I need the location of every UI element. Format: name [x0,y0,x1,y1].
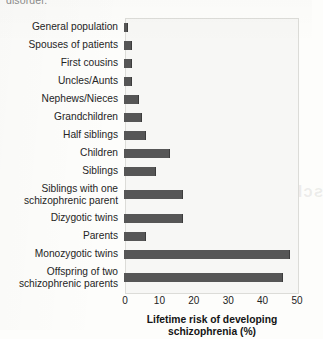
bar-category-label: Monozygotic twins [0,248,124,260]
bar [124,149,170,158]
bar-track [124,90,304,108]
bar-category-label: First cousins [0,57,124,69]
bar-row: Nephews/Nieces [0,90,312,108]
x-axis-tick-label: 10 [154,295,165,306]
bar-track [124,18,304,36]
bar [124,113,142,122]
bar-row: Half siblings [0,126,312,144]
bar-category-label: Siblings with one schizophrenic parent [0,183,124,206]
x-axis-tick-label: 50 [291,295,302,306]
bar-track [124,36,304,54]
x-axis-tick-label: 0 [122,295,128,306]
bar [124,59,132,68]
bar [124,95,139,104]
bar [124,232,146,241]
bar-category-label: Half siblings [0,129,124,141]
bar-category-label: Children [0,147,124,159]
x-axis-title-line2: schizophrenia (%) [124,326,300,338]
bar-row: Spouses of patients [0,36,312,54]
x-axis: 01020304050 [124,292,298,310]
bar-row: Dizygotic twins [0,209,312,227]
bar-track [124,227,304,245]
bar-row: Grandchildren [0,108,312,126]
bar-category-label: General population [0,21,124,33]
bar-track [124,162,304,180]
bar-category-label: Dizygotic twins [0,212,124,224]
x-axis-tick-label: 30 [223,295,234,306]
cropped-header-text: disorder. [6,0,47,8]
bar [124,167,156,176]
bar-category-label: Siblings [0,165,124,177]
bar-category-label: Uncles/Aunts [0,75,124,87]
chart-rows: General populationSpouses of patientsFir… [0,18,312,292]
bar-track [124,126,304,144]
bar-category-label: Offspring of two schizophrenic parents [0,266,124,289]
bar-category-label: Grandchildren [0,111,124,123]
bar-track [124,180,304,209]
bar [124,190,183,199]
bar-track [124,245,304,263]
bar-category-label: Nephews/Nieces [0,93,124,105]
bar [124,250,290,259]
bar-row: Siblings with one schizophrenic parent [0,180,312,209]
bar-track [124,263,304,292]
bar [124,77,132,86]
bar [124,214,183,223]
bar-row: Children [0,144,312,162]
bar-track [124,108,304,126]
x-axis-tick-label: 20 [188,295,199,306]
bar-row: General population [0,18,312,36]
bar-chart: General populationSpouses of patientsFir… [0,18,312,339]
bar-category-label: Parents [0,230,124,242]
bar [124,273,283,282]
bar-row: Uncles/Aunts [0,72,312,90]
bar-category-label: Spouses of patients [0,39,124,51]
x-axis-tick-label: 40 [257,295,268,306]
bar-row: Offspring of two schizophrenic parents [0,263,312,292]
bar [124,131,146,140]
bar-row: First cousins [0,54,312,72]
bar-row: Monozygotic twins [0,245,312,263]
bar [124,23,128,32]
bar-row: Parents [0,227,312,245]
bar [124,41,132,50]
bar-track [124,72,304,90]
bar-row: Siblings [0,162,312,180]
x-axis-title-line1: Lifetime risk of developing [124,314,300,326]
bar-track [124,209,304,227]
bar-track [124,144,304,162]
bar-track [124,54,304,72]
x-axis-title: Lifetime risk of developing schizophreni… [124,314,300,339]
